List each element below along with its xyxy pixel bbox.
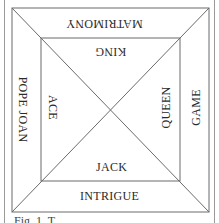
label-matrimony: MATRIMONY	[66, 16, 143, 31]
figure-caption: Fig. 1. T	[14, 214, 55, 223]
label-intrigue: INTRIGUE	[80, 189, 139, 204]
label-pope-joan: POPE JOAN	[15, 77, 30, 143]
label-king: KING	[95, 44, 126, 59]
label-ace: ACE	[45, 95, 60, 120]
label-game: GAME	[189, 89, 204, 126]
label-queen: QUEEN	[159, 86, 174, 128]
label-jack: JACK	[96, 160, 127, 175]
